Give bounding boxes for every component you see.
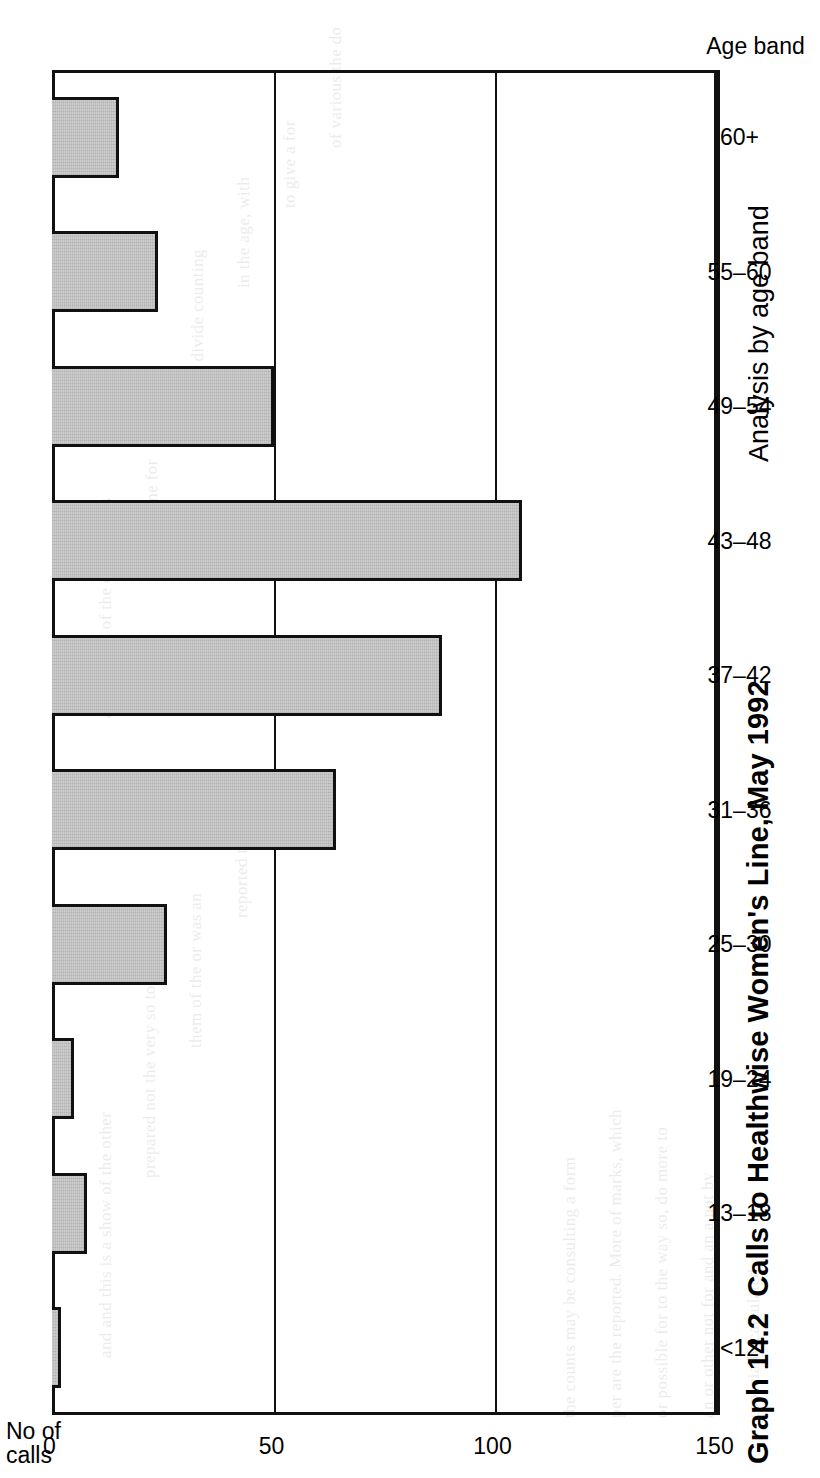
printed-page: and and this is a show of the other prep…	[0, 0, 820, 1478]
bar	[52, 1173, 87, 1254]
bar	[52, 500, 522, 581]
bar	[52, 231, 158, 312]
chart-plot-area	[52, 70, 717, 1415]
bar	[52, 769, 336, 850]
bar	[52, 904, 167, 985]
value-tick-label: 50	[241, 1433, 301, 1460]
caption-title-row: Graph 14.2 Calls to Healthwise Women's L…	[742, 680, 775, 1464]
value-tick-label: 100	[463, 1433, 523, 1460]
value-tick-label: 0	[20, 1433, 80, 1460]
bar	[52, 635, 442, 716]
figure-number: Graph 14.2	[742, 1313, 774, 1464]
caption-title: Calls to Healthwise Women's Line, May 19…	[742, 680, 774, 1297]
chart-stage: and and this is a show of the other prep…	[0, 0, 820, 1478]
bar	[52, 1038, 74, 1119]
bar-series	[52, 70, 717, 1415]
bar	[52, 1307, 61, 1388]
bar	[52, 366, 274, 447]
value-tick-label: 150	[685, 1433, 745, 1460]
figure-caption: Graph 14.2 Calls to Healthwise Women's L…	[742, 0, 820, 1478]
bar	[52, 97, 119, 178]
caption-subtitle: Analysis by age band	[744, 205, 775, 462]
